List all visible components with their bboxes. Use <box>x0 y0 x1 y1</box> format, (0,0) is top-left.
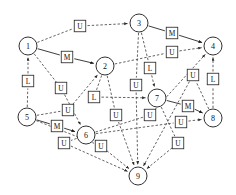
edge-label-u-13: U <box>144 109 156 121</box>
edge-label-u-8: U <box>187 69 199 81</box>
edge-1-to-6-seg1 <box>34 54 56 82</box>
edge-label-text: U <box>175 139 181 148</box>
edge-label-text: U <box>98 142 104 151</box>
node-label: 9 <box>136 172 140 181</box>
node-1[interactable]: 1 <box>19 37 37 55</box>
edge-label-u-15: U <box>175 116 187 128</box>
edge-5-to-2-seg1 <box>37 111 61 115</box>
edge-label-text: U <box>178 118 184 127</box>
edge-2-to-7-seg1 <box>97 75 102 90</box>
node-label: 3 <box>137 19 141 28</box>
edge-1-to-2-seg2 <box>74 59 94 64</box>
edge-label-m-2: M <box>166 27 178 39</box>
graph-diagram: UMMULULUULLUUUMUMUUU 123456789 <box>0 0 236 195</box>
edge-label-layer: UMMULULUULLUUUMUMUUU <box>22 20 219 152</box>
node-7[interactable]: 7 <box>148 89 166 107</box>
edge-label-text: L <box>148 64 153 73</box>
edge-5-to-1-seg1 <box>27 88 28 107</box>
edge-2-to-4-seg2 <box>179 48 201 51</box>
edge-label-text: U <box>113 111 119 120</box>
edge-3-to-4-seg1 <box>149 26 165 31</box>
edge-label-text: M <box>64 53 71 62</box>
edge-5-to-6-seg1 <box>37 120 50 124</box>
edge-label-text: U <box>65 106 71 115</box>
node-label: 1 <box>26 42 30 51</box>
edge-label-m-14: M <box>182 100 194 112</box>
edge-label-u-5: U <box>55 82 67 94</box>
node-layer: 123456789 <box>18 14 222 185</box>
edge-label-l-4: L <box>22 75 34 87</box>
edge-layer <box>27 24 213 172</box>
edge-label-text: M <box>169 29 176 38</box>
edge-1-to-3-seg2 <box>87 24 127 26</box>
edge-2-to-7-seg2 <box>101 97 145 98</box>
edge-5-to-9-seg2 <box>107 151 129 169</box>
edge-label-m-16: M <box>51 120 63 132</box>
edge-label-text: U <box>190 71 196 80</box>
edge-5-to-6-seg2 <box>64 128 75 131</box>
edge-label-u-18: U <box>95 140 107 152</box>
edge-label-text: L <box>26 77 31 86</box>
node-2[interactable]: 2 <box>96 57 114 75</box>
node-label: 2 <box>103 62 107 71</box>
edge-label-u-7: U <box>130 79 142 91</box>
edge-3-to-7-seg1 <box>141 33 148 61</box>
edge-label-m-1: M <box>61 51 73 63</box>
edge-2-to-4-seg1 <box>115 54 165 64</box>
edge-label-u-12: U <box>110 109 122 121</box>
edge-label-u-3: U <box>166 46 178 58</box>
edge-3-to-7-seg2 <box>152 75 155 86</box>
edge-label-text: U <box>77 22 83 31</box>
edge-label-u-11: U <box>62 104 74 116</box>
edge-label-l-6: L <box>144 62 156 74</box>
edge-label-text: U <box>147 111 153 120</box>
edge-label-text: U <box>133 81 139 90</box>
edge-label-l-9: L <box>207 73 219 85</box>
node-3[interactable]: 3 <box>130 14 148 32</box>
edge-label-u-19: U <box>172 137 184 149</box>
node-9[interactable]: 9 <box>129 167 147 185</box>
edge-1-to-3-seg1 <box>37 29 73 43</box>
edge-label-text: U <box>169 48 175 57</box>
node-label: 7 <box>155 94 159 103</box>
edge-8-to-9-seg1 <box>196 82 209 109</box>
edge-label-u-17: U <box>58 137 70 149</box>
node-8[interactable]: 8 <box>204 109 222 127</box>
edge-6-to-8-seg2 <box>188 119 201 121</box>
edge-label-l-10: L <box>88 91 100 103</box>
edge-3-to-4-seg2 <box>179 35 202 42</box>
edge-label-text: L <box>92 93 97 102</box>
node-5[interactable]: 5 <box>18 108 36 126</box>
node-label: 6 <box>84 131 88 140</box>
node-label: 4 <box>211 42 215 51</box>
node-6[interactable]: 6 <box>77 126 95 144</box>
node-label: 5 <box>25 113 29 122</box>
edge-label-text: M <box>54 122 61 131</box>
node-4[interactable]: 4 <box>204 37 222 55</box>
edge-3-to-9-seg1 <box>136 33 138 78</box>
edge-label-text: U <box>58 84 64 93</box>
graph-canvas: UMMULULUULLUUUMUMUUU 123456789 <box>0 0 236 195</box>
edge-label-text: M <box>185 102 192 111</box>
edge-7-to-8-seg2 <box>195 109 203 113</box>
edge-6-to-9-seg1 <box>71 138 77 140</box>
edge-label-u-0: U <box>74 20 86 32</box>
edge-1-to-2-seg1 <box>38 49 60 55</box>
edge-7-to-9-seg2 <box>147 148 172 169</box>
edge-label-text: L <box>211 75 216 84</box>
edge-label-text: U <box>61 139 67 148</box>
edge-2-to-9-seg1 <box>107 76 114 108</box>
node-label: 8 <box>211 114 215 123</box>
